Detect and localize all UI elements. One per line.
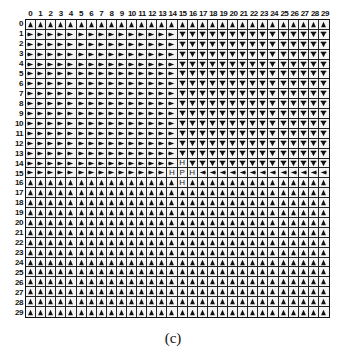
grid-cell-r28-c22 [248, 297, 258, 307]
grid-cell-r15-c11 [137, 168, 147, 178]
column-label: 25 [279, 8, 289, 19]
grid-cell-r6-c23 [258, 79, 268, 89]
up-triangle-icon [78, 21, 85, 28]
up-triangle-icon [249, 199, 256, 206]
up-triangle-icon [259, 298, 266, 305]
right-arrow-icon [138, 169, 145, 176]
up-triangle-icon [78, 268, 85, 275]
up-triangle-icon [27, 179, 34, 186]
grid-cell-r29-c1 [36, 307, 46, 317]
down-arrow-icon [269, 61, 276, 68]
up-triangle-icon [88, 209, 95, 216]
row-label: 25 [15, 268, 23, 278]
grid-cell-r12-c20 [228, 139, 238, 149]
row-label: 3 [19, 49, 23, 59]
down-arrow-icon [219, 41, 226, 48]
down-arrow-icon [310, 41, 317, 48]
up-triangle-icon [310, 298, 317, 305]
grid-cell-r15-c0 [26, 168, 36, 178]
grid-cell-r5-c12 [147, 69, 157, 79]
down-arrow-icon [239, 70, 246, 77]
up-triangle-icon [239, 219, 246, 226]
right-arrow-icon [158, 51, 165, 58]
right-arrow-icon [168, 41, 175, 48]
grid-cell-r14-c10 [127, 159, 137, 169]
right-arrow-icon [118, 90, 125, 97]
grid-cell-r13-c17 [198, 149, 208, 159]
grid-cell-r9-c21 [238, 109, 248, 119]
grid-cell-r19-c25 [279, 208, 289, 218]
grid-cell-r16-c16 [188, 178, 198, 188]
grid-cell-r15-c19 [218, 168, 228, 178]
grid-cell-r19-c3 [56, 208, 66, 218]
grid-cell-r19-c19 [218, 208, 228, 218]
down-arrow-icon [199, 110, 206, 117]
up-triangle-icon [300, 189, 307, 196]
grid-cell-r8-c5 [77, 99, 87, 109]
grid-cell-r23-c1 [36, 248, 46, 258]
grid-cell-r17-c13 [157, 188, 167, 198]
right-arrow-icon [47, 140, 54, 147]
down-arrow-icon [229, 160, 236, 167]
right-arrow-icon [67, 100, 74, 107]
grid-cell-r9-c6 [87, 109, 97, 119]
right-arrow-icon [88, 150, 95, 157]
grid-cell-r26-c20 [228, 277, 238, 287]
grid-cell-r14-c26 [289, 159, 299, 169]
grid-cell-r22-c7 [97, 238, 107, 248]
right-arrow-icon [88, 41, 95, 48]
grid-cell-r4-c3 [56, 60, 66, 70]
grid-cell-r10-c4 [66, 119, 76, 129]
down-arrow-icon [320, 110, 327, 117]
right-arrow-icon [138, 31, 145, 38]
right-arrow-icon [98, 61, 105, 68]
grid-cell-r1-c26 [289, 30, 299, 40]
down-arrow-icon [269, 130, 276, 137]
down-arrow-icon [320, 90, 327, 97]
row-label: 11 [16, 129, 23, 139]
up-triangle-icon [219, 278, 226, 285]
down-arrow-icon [209, 160, 216, 167]
down-arrow-icon [249, 70, 256, 77]
down-arrow-icon [259, 140, 266, 147]
down-arrow-icon [179, 51, 186, 58]
grid-cell-r28-c19 [218, 297, 228, 307]
grid-cell-r0-c21 [238, 20, 248, 30]
grid-cell-r7-c12 [147, 89, 157, 99]
grid-cell-r12-c14 [167, 139, 177, 149]
down-arrow-icon [280, 150, 287, 157]
grid-cell-r10-c6 [87, 119, 97, 129]
grid-cell-r24-c0 [26, 258, 36, 268]
grid-cell-r10-c0 [26, 119, 36, 129]
grid-cell-r9-c4 [66, 109, 76, 119]
grid-cell-r29-c29 [319, 307, 329, 317]
up-triangle-icon [168, 249, 175, 256]
up-triangle-icon [280, 229, 287, 236]
up-triangle-icon [219, 189, 226, 196]
grid-cell-r20-c8 [107, 218, 117, 228]
grid-cell-r29-c7 [97, 307, 107, 317]
grid-cell-r8-c15 [178, 99, 188, 109]
grid-cell-r29-c26 [289, 307, 299, 317]
up-triangle-icon [37, 199, 44, 206]
grid-cell-r25-c19 [218, 267, 228, 277]
grid-cell-r28-c10 [127, 297, 137, 307]
right-arrow-icon [138, 70, 145, 77]
up-triangle-icon [118, 189, 125, 196]
down-arrow-icon [179, 70, 186, 77]
grid-cell-r3-c17 [198, 50, 208, 60]
grid-cell-r27-c11 [137, 287, 147, 297]
grid-cell-r2-c13 [157, 40, 167, 50]
grid-cell-r13-c3 [56, 149, 66, 159]
grid-cell-r25-c13 [157, 267, 167, 277]
down-arrow-icon [209, 51, 216, 58]
grid-cell-r29-c12 [147, 307, 157, 317]
up-triangle-icon [239, 229, 246, 236]
grid-cell-r0-c23 [258, 20, 268, 30]
up-triangle-icon [239, 239, 246, 246]
up-triangle-icon [67, 21, 74, 28]
down-arrow-icon [269, 80, 276, 87]
up-triangle-icon [269, 298, 276, 305]
right-arrow-icon [78, 51, 85, 58]
down-arrow-icon [269, 100, 276, 107]
